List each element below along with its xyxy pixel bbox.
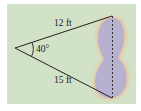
triangle-diagram — [0, 0, 141, 111]
angle-arc — [32, 43, 34, 57]
side-label-bottom: 15 ft — [54, 76, 72, 86]
pond — [95, 18, 127, 98]
side-label-top: 12 ft — [54, 19, 72, 29]
angle-label: 40° — [36, 45, 49, 55]
